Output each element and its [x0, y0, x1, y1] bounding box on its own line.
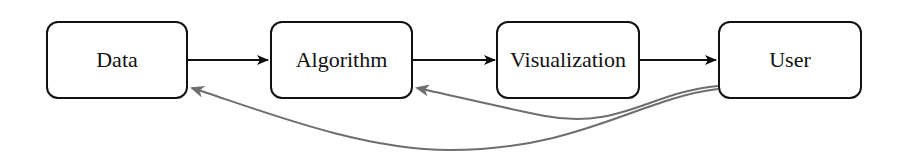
node-data: Data [46, 21, 188, 99]
node-algorithm-label: Algorithm [296, 47, 388, 73]
node-visualization-label: Visualization [510, 47, 626, 73]
node-algorithm: Algorithm [270, 21, 413, 99]
node-visualization: Visualization [496, 21, 640, 99]
node-user: User [718, 21, 862, 99]
node-data-label: Data [96, 47, 138, 73]
node-user-label: User [769, 47, 811, 73]
